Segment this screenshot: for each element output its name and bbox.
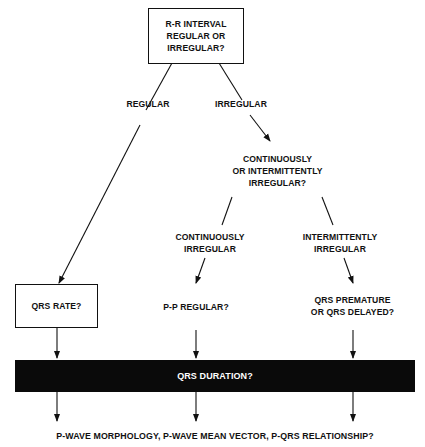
final-question-label: P-WAVE MORPHOLOGY, P-WAVE MEAN VECTOR, P… — [20, 430, 410, 442]
pp-regular-label: P-P REGULAR? — [150, 301, 242, 313]
qrs-rate-box: QRS RATE? — [15, 284, 98, 328]
qrs-duration-bar: QRS DURATION? — [15, 360, 415, 392]
rr-interval-box: R-R INTERVAL REGULAR OR IRREGULAR? — [148, 8, 244, 64]
qrs-rate-label: QRS RATE? — [32, 300, 82, 312]
branch-irregular-label: IRREGULAR — [206, 98, 276, 110]
branch-intermittently-label: INTERMITTENTLY IRREGULAR — [290, 231, 390, 255]
rr-interval-label: R-R INTERVAL REGULAR OR IRREGULAR? — [165, 18, 226, 54]
continuity-question-label: CONTINUOUSLY OR INTERMITTENTLY IRREGULAR… — [220, 153, 335, 189]
qrs-duration-label: QRS DURATION? — [177, 370, 253, 382]
qrs-premature-label: QRS PREMATURE OR QRS DELAYED? — [295, 294, 410, 318]
branch-continuously-label: CONTINUOUSLY IRREGULAR — [165, 231, 255, 255]
branch-regular-label: REGULAR — [118, 98, 178, 110]
